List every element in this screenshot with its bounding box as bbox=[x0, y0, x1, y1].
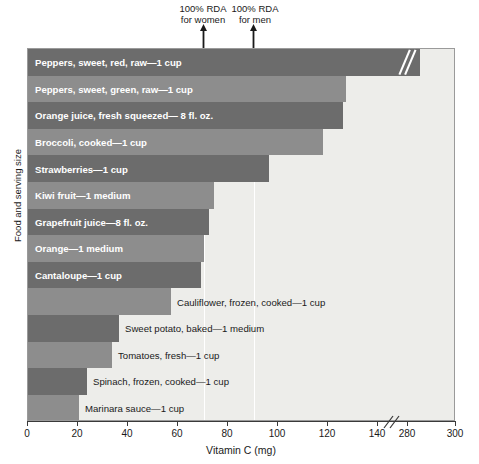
bar-label: Peppers, sweet, red, raw—1 cup bbox=[35, 57, 182, 68]
x-axis-tick-label: 300 bbox=[435, 428, 475, 439]
x-axis-tick-label: 100 bbox=[257, 428, 297, 439]
x-axis-tick-label: 120 bbox=[307, 428, 347, 439]
x-axis-tick-label: 40 bbox=[107, 428, 147, 439]
x-axis-tick-label: 80 bbox=[207, 428, 247, 439]
x-axis-tick bbox=[127, 421, 128, 426]
bar-label: Broccoli, cooked—1 cup bbox=[35, 137, 147, 148]
annotation-rda-men-line1: 100% RDA bbox=[219, 3, 291, 14]
plot-area: Peppers, sweet, red, raw—1 cupPeppers, s… bbox=[27, 48, 455, 421]
arrow-up-icon-women bbox=[199, 24, 208, 50]
bar bbox=[28, 368, 87, 395]
x-axis-tick bbox=[407, 421, 408, 426]
x-axis-title: Vitamin C (mg) bbox=[27, 444, 455, 456]
bar-row: Grapefruit juice—8 fl. oz. bbox=[28, 209, 454, 236]
bar-row: Strawberries—1 cup bbox=[28, 155, 454, 182]
bar-label: Cauliflower, frozen, cooked—1 cup bbox=[177, 296, 325, 307]
bar bbox=[28, 395, 79, 421]
bar-label: Spinach, frozen, cooked—1 cup bbox=[93, 376, 229, 387]
bar-row: Cauliflower, frozen, cooked—1 cup bbox=[28, 288, 454, 315]
bar bbox=[28, 342, 112, 369]
bar-label: Strawberries—1 cup bbox=[35, 163, 128, 174]
bar-label: Tomatoes, fresh—1 cup bbox=[118, 349, 219, 360]
annotation-rda-men: 100% RDA for men bbox=[219, 3, 291, 25]
bar-label: Sweet potato, baked—1 medium bbox=[125, 323, 264, 334]
bar-label: Grapefruit juice—8 fl. oz. bbox=[35, 216, 148, 227]
vitamin-c-bar-chart: 100% RDA for women 100% RDA for men Pepp… bbox=[0, 0, 479, 464]
x-axis-tick bbox=[227, 421, 228, 426]
bar-row: Sweet potato, baked—1 medium bbox=[28, 315, 454, 342]
bar bbox=[28, 288, 171, 315]
bar bbox=[28, 315, 119, 342]
bar-label: Orange juice, fresh squeezed— 8 fl. oz. bbox=[35, 110, 213, 121]
arrow-up-icon-men bbox=[249, 24, 258, 50]
bar-row: Orange—1 medium bbox=[28, 235, 454, 262]
bar-row: Broccoli, cooked—1 cup bbox=[28, 129, 454, 156]
bar-label: Cantaloupe—1 cup bbox=[35, 270, 122, 281]
x-axis-tick bbox=[327, 421, 328, 426]
bar-row: Spinach, frozen, cooked—1 cup bbox=[28, 368, 454, 395]
bar-row: Tomatoes, fresh—1 cup bbox=[28, 342, 454, 369]
x-axis-tick-label: 60 bbox=[157, 428, 197, 439]
bar-label: Marinara sauce—1 cup bbox=[85, 403, 184, 414]
bar-row: Peppers, sweet, green, raw—1 cup bbox=[28, 76, 454, 103]
x-axis-tick bbox=[455, 421, 456, 426]
x-axis-tick bbox=[27, 421, 28, 426]
x-axis-tick bbox=[277, 421, 278, 426]
bar-row: Kiwi fruit—1 medium bbox=[28, 182, 454, 209]
bar-label: Kiwi fruit—1 medium bbox=[35, 190, 130, 201]
x-axis-tick bbox=[177, 421, 178, 426]
bar-label: Peppers, sweet, green, raw—1 cup bbox=[35, 83, 193, 94]
bar-row: Orange juice, fresh squeezed— 8 fl. oz. bbox=[28, 102, 454, 129]
x-axis-tick bbox=[377, 421, 378, 426]
bar-label: Orange—1 medium bbox=[35, 243, 123, 254]
y-axis-title: Food and serving size bbox=[12, 131, 23, 261]
x-axis-tick bbox=[77, 421, 78, 426]
axis-break-mark-scale bbox=[380, 414, 404, 430]
x-axis-tick-label: 20 bbox=[57, 428, 97, 439]
bar-row: Peppers, sweet, red, raw—1 cup bbox=[28, 49, 454, 76]
x-axis-tick-label: 0 bbox=[7, 428, 47, 439]
bar-row: Cantaloupe—1 cup bbox=[28, 262, 454, 289]
